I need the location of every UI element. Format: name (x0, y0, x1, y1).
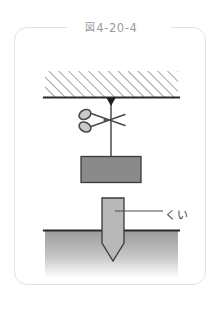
figure-card: 図4-20-4 (14, 27, 206, 285)
stake-label: くい (165, 206, 188, 222)
scissors-pivot (104, 119, 107, 122)
string-group (107, 98, 116, 158)
scissors-handle-upper (77, 108, 92, 122)
scissors-icon (77, 108, 125, 134)
string-anchor-icon (107, 98, 116, 106)
figure-illustration (15, 28, 207, 286)
scissors-handle-lower (77, 120, 92, 134)
ceiling-hatch (45, 71, 178, 97)
suspended-block (81, 157, 141, 183)
ceiling-group (44, 71, 179, 98)
scissors-blade-lower (86, 115, 126, 129)
